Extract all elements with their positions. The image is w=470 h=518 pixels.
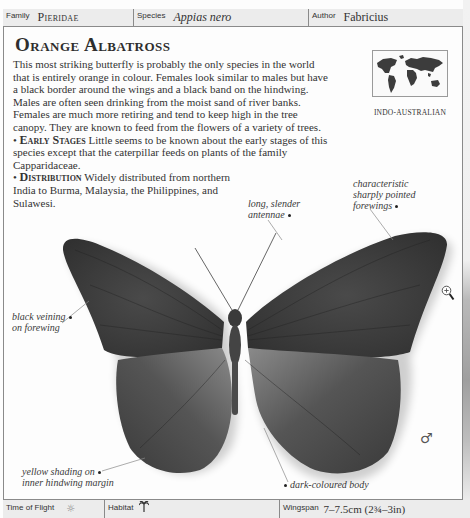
- annotation-veining: black veining on forewing: [12, 311, 72, 333]
- annotation-antennae: long, slender antennae: [248, 198, 300, 220]
- pointer-dot: [69, 316, 72, 319]
- page: Family Pieridae Species Appias nero Auth…: [0, 0, 470, 518]
- wingspan-cell: Wingspan 7–7.5cm (2¾–3in): [280, 500, 463, 518]
- annotation-forewings: characteristic sharply pointed forewings: [353, 178, 416, 211]
- habitat-label: Habitat: [108, 503, 133, 512]
- butterfly-illustration: [0, 0, 470, 518]
- zoom-in-icon[interactable]: [441, 285, 455, 301]
- time-of-flight-label: Time of Flight: [6, 503, 54, 512]
- time-of-flight-cell: Time of Flight ☼: [3, 500, 105, 518]
- pointer-dot: [395, 205, 398, 208]
- male-sex-icon: ♂: [420, 430, 433, 446]
- annotation-hindwing: yellow shading on inner hindwing margin: [22, 466, 114, 488]
- footer-bar: Time of Flight ☼ Habitat Wingspan 7–7.5c…: [3, 499, 463, 518]
- pointer-dot: [284, 484, 287, 487]
- sun-icon: ☼: [66, 503, 75, 514]
- palm-tree-icon: [139, 501, 149, 515]
- pointer-dot: [98, 471, 101, 474]
- pointer-dot: [288, 214, 291, 217]
- habitat-cell: Habitat: [105, 500, 280, 518]
- wingspan-label: Wingspan: [283, 503, 319, 512]
- annotation-body: dark-coloured body: [284, 479, 369, 490]
- wingspan-value: 7–7.5cm (2¾–3in): [324, 503, 406, 515]
